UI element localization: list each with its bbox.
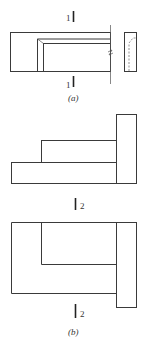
vertical-member [117, 115, 137, 184]
caption-a: (a) [68, 93, 79, 103]
figure-b-plan [12, 223, 137, 308]
upper-bar [42, 141, 117, 163]
break-mark [108, 50, 113, 55]
plan-inner-notch [42, 223, 117, 265]
plan-outer [12, 223, 117, 294]
section-label-2-bottom: 2 [80, 309, 85, 319]
section-label-1-top: 1 [66, 13, 71, 23]
figure-a: 1 1 (a) [11, 11, 137, 103]
section-hidden-line [129, 38, 136, 71]
section-label-1-bottom: 1 [66, 80, 71, 90]
caption-b: (b) [68, 327, 79, 337]
lower-bar [12, 163, 117, 184]
figure-b-elevation [12, 115, 137, 184]
plan-side-member [117, 223, 137, 308]
corner-bevel [38, 39, 44, 44]
technical-drawing: 1 1 (a) 2 2 (b) [0, 0, 147, 350]
section-label-2-middle: 2 [80, 201, 85, 211]
plan-outline [11, 33, 111, 72]
